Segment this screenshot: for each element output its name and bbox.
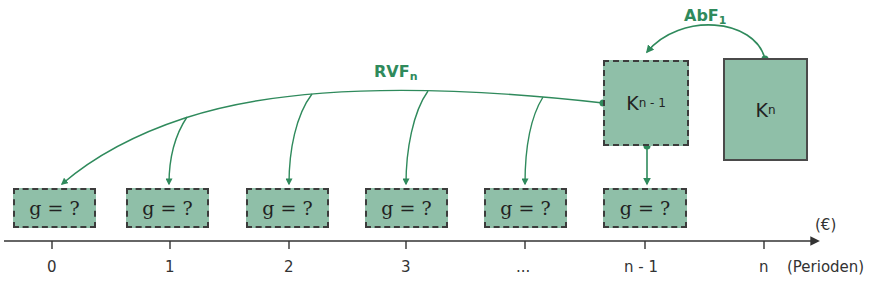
- tick-label-ellipsis: ...: [516, 258, 530, 276]
- rvf-label-sub: n: [410, 70, 418, 83]
- tick-label-3: 3: [401, 258, 411, 276]
- g-box-text: g = ?: [142, 197, 192, 219]
- g-box-3: g = ?: [365, 188, 448, 228]
- tick-label-n: n: [759, 258, 769, 276]
- tick-label-0: 0: [47, 258, 57, 276]
- abf-label: AbF1: [684, 6, 726, 27]
- rvf-main-arrow: [62, 91, 603, 184]
- unit-label: (€): [815, 216, 836, 234]
- g-box-text: g = ?: [381, 197, 431, 219]
- rvf-label: RVFn: [374, 62, 417, 83]
- k-n-box: Kn: [723, 58, 808, 161]
- k-n-sub: n: [768, 103, 776, 117]
- rvf-branch-1: [169, 117, 187, 184]
- g-box-text: g = ?: [29, 197, 79, 219]
- k-n-minus-1-sub: n - 1: [639, 96, 666, 110]
- g-box-text: g = ?: [500, 197, 550, 219]
- k-n-minus-1-main: K: [626, 92, 638, 114]
- k-n-minus-1-box: Kn - 1: [603, 60, 689, 146]
- abf-label-main: AbF: [684, 6, 719, 25]
- tick-label-1: 1: [165, 258, 175, 276]
- rvf-branch-2: [289, 94, 312, 184]
- rvf-branch-3: [406, 91, 428, 184]
- g-box-0: g = ?: [13, 188, 96, 228]
- tick-label-2: 2: [284, 258, 294, 276]
- period-label: (Perioden): [787, 258, 864, 276]
- rvf-label-main: RVF: [374, 62, 410, 81]
- g-box-2: g = ?: [246, 188, 329, 228]
- k-n-main: K: [755, 99, 767, 121]
- g-box-n-minus-1: g = ?: [603, 188, 687, 228]
- g-box-1: g = ?: [126, 188, 209, 228]
- g-box-text: g = ?: [262, 197, 312, 219]
- g-box-text: g = ?: [620, 197, 670, 219]
- abf-label-sub: 1: [719, 14, 727, 27]
- g-box-4: g = ?: [484, 188, 567, 228]
- axis-ticks: [52, 241, 764, 249]
- abf-arrow: [647, 25, 765, 59]
- rvf-branch-4: [525, 97, 543, 184]
- tick-label-n-minus-1: n - 1: [624, 258, 658, 276]
